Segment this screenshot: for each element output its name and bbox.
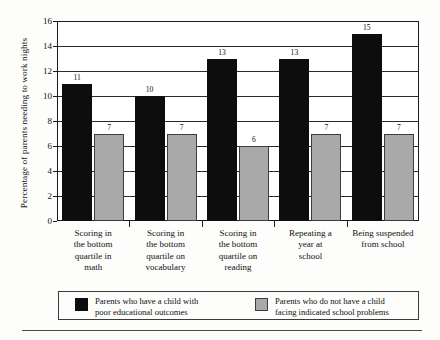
legend-swatch-grey-icon — [255, 298, 268, 311]
bar — [94, 134, 124, 222]
bar-value-label: 15 — [352, 24, 382, 32]
bar-value-label: 10 — [135, 86, 165, 94]
y-axis-tick-label: 8 — [30, 117, 52, 126]
legend: Parents who have a child with poor educa… — [58, 291, 419, 320]
y-axis-tick-label: 4 — [30, 167, 52, 176]
bar-value-label: 13 — [279, 49, 309, 57]
bar-value-label: 13 — [207, 49, 237, 57]
y-axis-tick-label: 0 — [30, 217, 52, 226]
y-axis-tick-label: 14 — [30, 42, 52, 51]
footer-rule — [22, 330, 422, 331]
bar-value-label: 6 — [239, 136, 269, 144]
x-axis-separator-tick — [347, 221, 348, 227]
bar-value-label: 11 — [62, 74, 92, 82]
chart-figure: Percentage of parents needing to work ni… — [0, 0, 440, 340]
x-axis-separator-tick — [129, 221, 130, 227]
bar-value-label: 7 — [167, 124, 197, 132]
bar — [311, 134, 341, 222]
x-axis-category-label: Being suspended from school — [340, 228, 426, 251]
bar — [62, 84, 92, 222]
legend-label-0: Parents who have a child with poor educa… — [95, 296, 198, 317]
bar — [167, 134, 197, 222]
x-axis-separator-tick — [274, 221, 275, 227]
bar-group-container: 117107136137157 — [57, 21, 419, 221]
y-axis-title: Percentage of parents needing to work ni… — [19, 13, 29, 233]
y-axis-tick-label: 16 — [30, 17, 52, 26]
y-axis-tick-label: 6 — [30, 142, 52, 151]
x-axis-separator-tick — [202, 221, 203, 227]
bar — [135, 96, 165, 221]
y-axis-tick-label: 12 — [30, 67, 52, 76]
y-axis-tick-label: 10 — [30, 92, 52, 101]
bar-value-label: 7 — [94, 124, 124, 132]
bar — [279, 59, 309, 222]
bar — [207, 59, 237, 222]
legend-item-1: Parents who do not have a child facing i… — [255, 296, 389, 317]
bar — [239, 146, 269, 221]
y-axis-tick-label: 2 — [30, 192, 52, 201]
y-axis-tick-mark — [53, 221, 57, 222]
bar-value-label: 7 — [384, 124, 414, 132]
legend-swatch-black-icon — [75, 298, 88, 311]
legend-item-0: Parents who have a child with poor educa… — [75, 296, 198, 317]
bar — [352, 34, 382, 222]
legend-label-1: Parents who do not have a child facing i… — [275, 296, 389, 317]
bar-value-label: 7 — [311, 124, 341, 132]
bar — [384, 134, 414, 222]
